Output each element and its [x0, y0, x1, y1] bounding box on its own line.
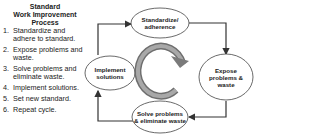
node-implement: Implement solutions [88, 58, 132, 88]
cycle-arrow-icon [138, 46, 189, 96]
node-expose-label: Expose problems & waste [201, 67, 251, 88]
connector-solve-to-implement [98, 91, 133, 121]
node-solve: Solve problems & eliminate waste [134, 102, 186, 132]
node-standardize-label: Standardize/ adherence [133, 16, 187, 30]
node-expose: Expose problems & waste [201, 56, 251, 98]
node-implement-label: Implement solutions [88, 66, 132, 80]
connector-expose-to-solve [189, 101, 226, 117]
node-solve-label: Solve problems & eliminate waste [134, 110, 186, 124]
connector-implement-to-standardize [98, 24, 131, 55]
connector-standardize-to-expose [189, 23, 226, 54]
node-standardize: Standardize/ adherence [133, 10, 187, 36]
